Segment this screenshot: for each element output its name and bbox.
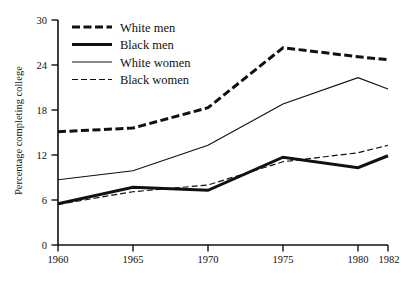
y-tick-label-30: 30 [37, 15, 48, 26]
legend-label-white-women: White women [120, 56, 191, 70]
y-tick-label-12: 12 [37, 150, 48, 161]
x-tick-label-1980: 1980 [348, 254, 369, 265]
legend-label-black-men: Black men [120, 38, 175, 52]
y-tick-label-0: 0 [42, 240, 47, 251]
x-tick-label-1982: 1982 [379, 254, 400, 265]
legend-label-black-women: Black women [120, 73, 190, 87]
x-tick-label-1960: 1960 [48, 254, 69, 265]
y-axis-title: Percentage completing college [13, 66, 24, 195]
line-chart: 0 6 12 18 24 30 1960 1965 1970 1975 1980… [0, 0, 408, 283]
chart-container: 0 6 12 18 24 30 1960 1965 1970 1975 1980… [0, 0, 408, 283]
y-tick-label-6: 6 [42, 195, 47, 206]
y-tick-label-24: 24 [37, 60, 48, 71]
y-tick-label-18: 18 [37, 105, 48, 116]
legend-label-white-men: White men [120, 21, 176, 35]
x-tick-label-1975: 1975 [273, 254, 294, 265]
chart-background [0, 0, 408, 283]
x-tick-label-1970: 1970 [198, 254, 219, 265]
x-tick-label-1965: 1965 [123, 254, 144, 265]
